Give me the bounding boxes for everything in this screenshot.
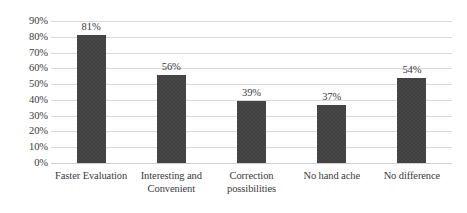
- bar: [77, 35, 106, 163]
- bar-chart: 90%80%70%60%50%40%30%20%10%0% 81%Faster …: [0, 0, 467, 213]
- bar-value-label: 56%: [146, 61, 196, 72]
- y-axis: 90%80%70%60%50%40%30%20%10%0%: [0, 0, 48, 213]
- y-axis-tick-label: 0%: [2, 157, 48, 168]
- bar-value-label: 37%: [307, 91, 357, 102]
- y-axis-tick-label: 30%: [2, 110, 48, 121]
- x-axis-category-label: Faster Evaluation: [46, 170, 136, 183]
- bar: [317, 105, 346, 163]
- y-axis-tick-label: 40%: [2, 94, 48, 105]
- bar-value-label: 81%: [66, 21, 116, 32]
- x-axis-category-label-line: No hand ache: [287, 170, 377, 183]
- x-axis-category-label: Interesting andConvenient: [126, 170, 216, 195]
- x-axis-category-label-line: Correction: [207, 170, 297, 183]
- x-axis-category-label-line: possibilities: [207, 183, 297, 196]
- bar: [397, 78, 426, 163]
- bar-value-label: 54%: [387, 64, 437, 75]
- gridline: [51, 163, 452, 164]
- y-axis-tick-label: 20%: [2, 125, 48, 136]
- gridline: [51, 37, 452, 38]
- x-axis-category-label-line: No difference: [367, 170, 457, 183]
- y-axis-tick-label: 10%: [2, 141, 48, 152]
- x-axis-category-label-line: Interesting and: [126, 170, 216, 183]
- y-axis-tick-label: 60%: [2, 62, 48, 73]
- x-axis-category-label: No hand ache: [287, 170, 377, 183]
- x-axis-category-label-line: Convenient: [126, 183, 216, 196]
- x-axis-category-label: No difference: [367, 170, 457, 183]
- gridline: [51, 53, 452, 54]
- y-axis-tick-label: 70%: [2, 47, 48, 58]
- bar: [157, 75, 186, 163]
- x-axis-category-label: Correctionpossibilities: [207, 170, 297, 195]
- x-axis-category-label-line: Faster Evaluation: [46, 170, 136, 183]
- bar: [237, 101, 266, 163]
- gridline: [51, 84, 452, 85]
- y-axis-tick-label: 80%: [2, 31, 48, 42]
- y-axis-tick-label: 50%: [2, 78, 48, 89]
- y-axis-tick-label: 90%: [2, 15, 48, 26]
- bar-value-label: 39%: [227, 87, 277, 98]
